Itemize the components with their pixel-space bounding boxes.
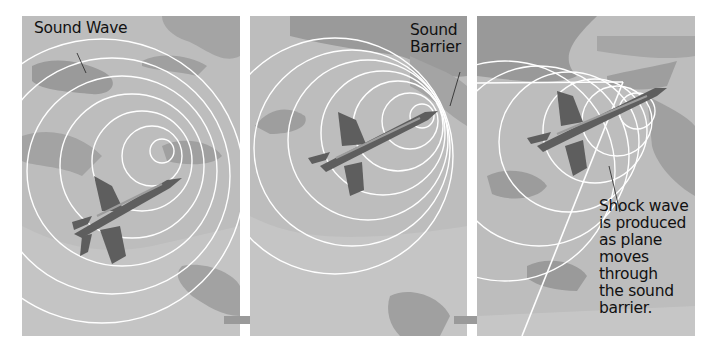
label-line: the sound bbox=[599, 283, 688, 300]
label-line: through bbox=[599, 266, 688, 283]
panel-sound-barrier: Sound Barrier bbox=[250, 16, 467, 336]
label-line: is produced bbox=[599, 215, 688, 232]
panel-shock-wave: Shock wave is produced as plane moves th… bbox=[477, 16, 695, 336]
panel-sound-wave: Sound Wave bbox=[22, 16, 240, 336]
label-line: barrier. bbox=[599, 300, 688, 317]
label-line: Shock wave bbox=[599, 198, 688, 215]
label-line: Barrier bbox=[410, 39, 461, 56]
label-sound-barrier: Sound Barrier bbox=[410, 22, 461, 56]
camouflage-background bbox=[250, 16, 467, 336]
camouflage-background bbox=[22, 16, 240, 336]
label-sound-wave: Sound Wave bbox=[34, 20, 127, 37]
label-line: Sound bbox=[410, 22, 461, 39]
label-line: as plane bbox=[599, 232, 688, 249]
label-line: moves bbox=[599, 249, 688, 266]
label-shock-wave: Shock wave is produced as plane moves th… bbox=[599, 198, 688, 317]
